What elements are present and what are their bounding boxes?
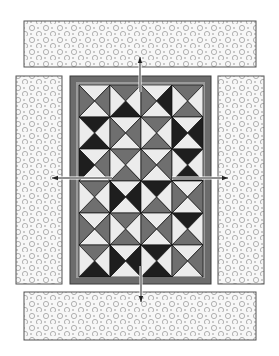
hourglass-block (172, 245, 203, 277)
hourglass-block (141, 85, 172, 117)
hourglass-block (141, 149, 172, 181)
hourglass-block (110, 149, 141, 181)
hourglass-block (110, 245, 141, 277)
hourglass-block (110, 213, 141, 245)
hourglass-block (110, 181, 141, 213)
left-border-strip (16, 76, 62, 284)
hourglass-block (172, 149, 203, 181)
hourglass-block (172, 117, 203, 149)
quilt-diagram (0, 0, 279, 356)
right-border-strip (218, 76, 264, 284)
hourglass-block (141, 117, 172, 149)
hourglass-block (79, 85, 110, 117)
hourglass-block (79, 213, 110, 245)
hourglass-block (79, 245, 110, 277)
center-quilt-block (70, 76, 211, 284)
hourglass-block (172, 85, 203, 117)
hourglass-block (79, 117, 110, 149)
hourglass-block (79, 149, 110, 181)
hourglass-block (79, 181, 110, 213)
hourglass-block (141, 245, 172, 277)
hourglass-block (141, 181, 172, 213)
hourglass-block (110, 117, 141, 149)
hourglass-block (172, 213, 203, 245)
hourglass-block (141, 213, 172, 245)
hourglass-block (172, 181, 203, 213)
hourglass-block (110, 85, 141, 117)
